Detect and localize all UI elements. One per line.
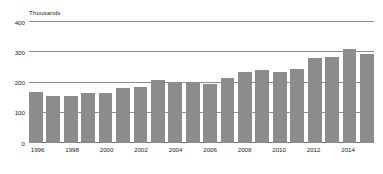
bar-2013 bbox=[325, 57, 339, 144]
bar-2006 bbox=[203, 84, 217, 143]
bar-2009 bbox=[255, 70, 269, 143]
x-axis-tick-2010: 2010 bbox=[272, 146, 286, 154]
bar-1999 bbox=[81, 93, 95, 143]
bar-2000 bbox=[99, 93, 113, 143]
bar-series bbox=[29, 22, 374, 143]
x-axis-tick-2008: 2008 bbox=[238, 146, 252, 154]
x-axis-tick-2000: 2000 bbox=[100, 146, 114, 154]
bar-1997 bbox=[46, 96, 60, 143]
bar-1998 bbox=[64, 96, 78, 143]
x-axis-tick-2012: 2012 bbox=[307, 146, 321, 154]
bar-2012 bbox=[308, 58, 322, 143]
x-axis-tick-2014: 2014 bbox=[341, 146, 355, 154]
bar-chart: Thousands 0100200300400 1996199820002002… bbox=[0, 0, 383, 174]
bar-2007 bbox=[221, 78, 235, 143]
y-axis-tick-400: 400 bbox=[0, 19, 25, 26]
bar-2010 bbox=[273, 72, 287, 143]
x-axis-tick-1996: 1996 bbox=[31, 146, 45, 154]
x-axis-tick-2002: 2002 bbox=[134, 146, 148, 154]
x-axis-tick-labels: 1996199820002002200420062008201020122014 bbox=[29, 146, 374, 158]
bar-2004 bbox=[168, 83, 182, 144]
y-axis-tick-200: 200 bbox=[0, 79, 25, 86]
plot-area bbox=[29, 22, 374, 143]
bar-2002 bbox=[134, 87, 148, 143]
bar-2014 bbox=[343, 49, 357, 143]
x-axis-tick-2006: 2006 bbox=[203, 146, 217, 154]
bar-2008 bbox=[238, 72, 252, 143]
x-axis-tick-1998: 1998 bbox=[65, 146, 79, 154]
bar-2015 bbox=[360, 54, 374, 143]
y-axis-tick-0: 0 bbox=[0, 140, 25, 147]
bar-2011 bbox=[290, 69, 304, 143]
bar-2005 bbox=[186, 83, 200, 143]
y-axis-unit-label: Thousands bbox=[29, 9, 61, 17]
bar-2003 bbox=[151, 80, 165, 143]
y-axis-tick-100: 100 bbox=[0, 109, 25, 116]
bar-1996 bbox=[29, 92, 43, 143]
x-axis-tick-2004: 2004 bbox=[169, 146, 183, 154]
y-axis-tick-300: 300 bbox=[0, 49, 25, 56]
bar-2001 bbox=[116, 88, 130, 143]
